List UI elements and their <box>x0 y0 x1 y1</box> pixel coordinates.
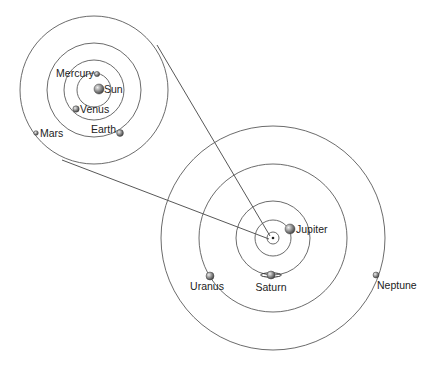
sun-label: Sun <box>104 83 123 95</box>
saturn-icon <box>267 271 275 279</box>
mercury-planet: Mercury <box>56 67 100 79</box>
venus-icon <box>73 106 79 112</box>
jupiter-label: Jupiter <box>296 223 328 235</box>
uranus-icon <box>206 272 214 280</box>
sun-planet: Sun <box>94 83 123 95</box>
solar-system-diagram: SunMercuryVenusEarthMars JupiterSaturnUr… <box>0 0 440 365</box>
neptune-planet: Neptune <box>373 272 417 291</box>
sun-icon <box>94 84 104 94</box>
uranus-label: Uranus <box>190 280 224 292</box>
jupiter-icon <box>285 224 295 234</box>
mercury-label: Mercury <box>56 67 95 79</box>
venus-label: Venus <box>80 103 109 115</box>
outer-solar-system: JupiterSaturnUranusNeptune <box>161 126 417 350</box>
neptune-icon <box>373 272 379 278</box>
mars-planet: Mars <box>34 127 64 139</box>
neptune-label: Neptune <box>377 279 417 291</box>
earth-label: Earth <box>91 123 116 135</box>
uranus-planet: Uranus <box>190 272 224 292</box>
mercury-icon <box>94 71 99 76</box>
mars-icon <box>34 131 39 136</box>
saturn-label: Saturn <box>256 281 287 293</box>
mars-label: Mars <box>40 127 63 139</box>
venus-planet: Venus <box>73 103 109 115</box>
earth-planet: Earth <box>91 123 124 136</box>
inner-solar-system: SunMercuryVenusEarthMars <box>20 16 168 164</box>
sun-symbol-icon <box>272 237 275 240</box>
earth-icon <box>117 130 124 137</box>
jupiter-planet: Jupiter <box>285 223 328 235</box>
